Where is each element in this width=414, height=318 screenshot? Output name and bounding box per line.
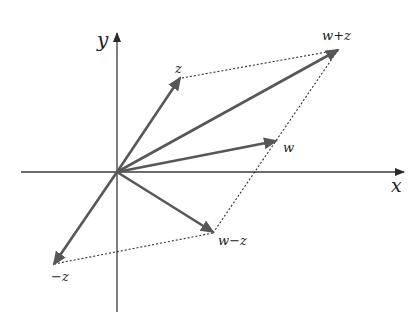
x-axis-label: x xyxy=(391,174,402,196)
label-neg-z: −z xyxy=(51,269,69,284)
label-z: z xyxy=(174,61,182,76)
vector-w-plus-z xyxy=(117,50,338,172)
label-w: w xyxy=(283,140,294,155)
vector-z xyxy=(117,78,180,172)
y-axis-label: y xyxy=(96,28,109,52)
dotted-line-negz-to-wmz xyxy=(54,233,213,264)
vector-neg-z xyxy=(54,172,117,264)
vector-w-minus-z xyxy=(117,172,213,232)
label-w-plus-z: w+z xyxy=(322,28,351,43)
vector-w xyxy=(117,141,276,172)
vector-diagram: y x z w+z w w−z −z xyxy=(0,0,414,318)
label-w-minus-z: w−z xyxy=(218,233,247,248)
